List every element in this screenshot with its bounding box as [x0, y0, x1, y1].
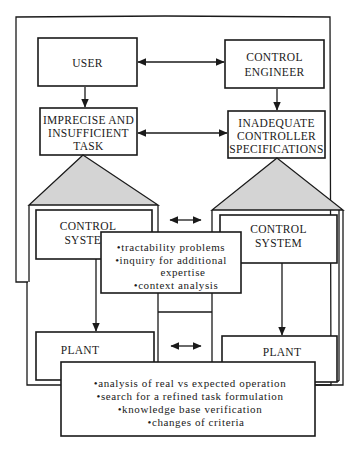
triangle-right: [212, 158, 343, 210]
triangle-left: [29, 155, 158, 205]
note-middle-line-1: •tractability problems: [117, 241, 225, 253]
node-plant-left-label: PLANT: [61, 344, 100, 356]
node-inadequate-specs-label-2: CONTROLLER: [237, 130, 316, 142]
note-bottom-line-4: •changes of criteria: [147, 416, 244, 428]
center-connector: [158, 282, 212, 362]
diagram-canvas: USER CONTROL ENGINEER IMPRECISE AND INSU…: [0, 0, 364, 451]
node-control-system-left-label-1: CONTROL: [60, 220, 116, 232]
node-user-label: USER: [72, 57, 103, 69]
note-middle: •tractability problems •inquiry for addi…: [101, 232, 241, 293]
note-middle-line-4: •context analysis: [134, 279, 219, 291]
node-inadequate-specs-label-1: INADEQUATE: [238, 117, 314, 129]
node-imprecise-task-label-1: IMPRECISE AND: [43, 114, 134, 126]
node-control-system-right-label-2: SYSTEM: [255, 237, 302, 249]
outer-frame-left-down: [16, 270, 28, 282]
note-bottom: •analysis of real vs expected operation …: [61, 362, 315, 436]
note-bottom-line-3: •knowledge base verification: [118, 403, 263, 415]
node-inadequate-specs-label-3: SPECIFICATIONS: [229, 143, 323, 155]
note-bottom-line-1: •analysis of real vs expected operation: [94, 377, 287, 389]
node-control-engineer-label-2: ENGINEER: [245, 66, 305, 78]
node-control-engineer-label-1: CONTROL: [246, 51, 302, 63]
note-middle-line-3: expertise: [160, 266, 205, 278]
node-control-engineer: CONTROL ENGINEER: [225, 40, 324, 88]
node-plant-right-label: PLANT: [263, 346, 302, 358]
node-imprecise-task: IMPRECISE AND INSUFFICIENT TASK: [40, 108, 137, 155]
node-control-system-right-label-1: CONTROL: [250, 223, 306, 235]
note-bottom-line-2: •search for a refined task formulation: [97, 390, 284, 402]
node-user: USER: [38, 38, 137, 86]
node-inadequate-specs: INADEQUATE CONTROLLER SPECIFICATIONS: [228, 111, 325, 158]
node-imprecise-task-label-2: INSUFFICIENT: [48, 127, 129, 139]
note-middle-line-2: •inquiry for additional: [115, 254, 227, 266]
node-imprecise-task-label-3: TASK: [73, 140, 104, 152]
